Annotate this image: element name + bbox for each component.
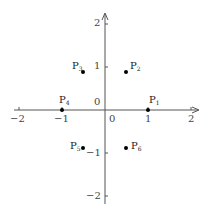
point-p6 <box>124 146 128 150</box>
label-p1: P1 <box>149 95 160 106</box>
point-p5 <box>81 146 85 150</box>
coordinate-plane <box>0 0 211 212</box>
label-p2: P2 <box>130 61 141 72</box>
x-tick-label-neg1: −1 <box>54 114 69 124</box>
y-tick-label-neg1: −1 <box>86 148 101 158</box>
x-tick-label-2: 2 <box>188 114 194 124</box>
y-tick-label-0: 0 <box>94 97 100 107</box>
point-p1 <box>146 108 150 112</box>
x-tick-label-0: 0 <box>109 114 115 124</box>
point-p2 <box>124 70 128 74</box>
label-p5: P5 <box>70 141 81 152</box>
y-tick-label-2: 2 <box>94 18 100 28</box>
y-tick-label-1: 1 <box>94 61 100 71</box>
x-tick-label-1: 1 <box>145 114 151 124</box>
label-p3: P3 <box>72 61 83 72</box>
y-tick-label-neg2: −2 <box>86 191 101 201</box>
label-p4: P4 <box>59 95 70 106</box>
label-p6: P6 <box>131 141 142 152</box>
point-p4 <box>60 108 64 112</box>
x-tick-label-neg2: −2 <box>10 114 25 124</box>
